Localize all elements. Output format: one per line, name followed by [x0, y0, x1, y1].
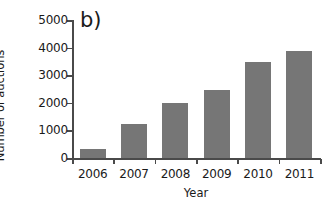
x-tick-mark	[113, 159, 115, 164]
x-tick-mark	[279, 159, 281, 164]
y-axis-title: Number of auctions	[0, 0, 26, 211]
bar	[286, 51, 312, 158]
x-tick-mark	[72, 159, 74, 164]
x-axis-title: Year	[72, 186, 320, 200]
x-tick-mark	[237, 159, 239, 164]
x-tick-label: 2007	[119, 167, 148, 181]
y-tick-label: 5000	[38, 13, 68, 27]
x-tick-mark	[196, 159, 198, 164]
bar	[245, 62, 271, 158]
x-tick-mark	[320, 159, 322, 164]
y-tick-label: 1000	[38, 123, 68, 137]
y-tick-label: 3000	[38, 68, 68, 82]
x-tick-label: 2011	[285, 167, 314, 181]
bar	[204, 90, 230, 158]
x-tick-label: 2008	[161, 167, 190, 181]
x-tick-label: 2006	[78, 167, 107, 181]
y-tick-label: 4000	[38, 41, 68, 55]
x-tick-label: 2010	[243, 167, 272, 181]
y-axis-line	[72, 20, 74, 159]
bar	[162, 103, 188, 158]
x-tick-label: 2009	[202, 167, 231, 181]
bar-chart-figure: Number of auctions b) 010002000300040005…	[0, 0, 334, 211]
plot-area: 010002000300040005000 200620072008200920…	[72, 20, 320, 158]
y-tick-label: 0	[61, 151, 68, 165]
bar	[121, 124, 147, 158]
x-tick-mark	[155, 159, 157, 164]
y-tick-label: 2000	[38, 96, 68, 110]
bar	[80, 149, 106, 158]
